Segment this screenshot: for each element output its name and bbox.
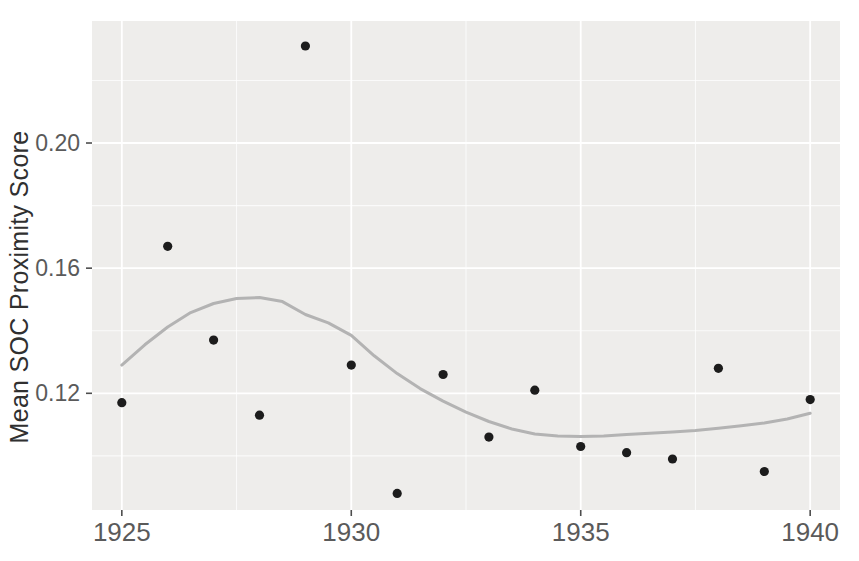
data-point-1938: [714, 364, 723, 373]
data-point-1925: [117, 398, 126, 407]
data-point-1928: [255, 411, 264, 420]
data-point-1932: [439, 370, 448, 379]
x-tick-label: 1930: [322, 517, 380, 547]
data-point-1931: [393, 489, 402, 498]
y-tick-label: 0.16: [35, 255, 80, 281]
data-point-1935: [576, 442, 585, 451]
data-point-1930: [347, 361, 356, 370]
scatter-plot: 19251930193519400.120.160.20 Mean SOC Pr…: [0, 0, 859, 561]
y-tick-label: 0.20: [35, 130, 80, 156]
data-point-1927: [209, 336, 218, 345]
x-tick-label: 1940: [781, 517, 839, 547]
data-point-1926: [163, 242, 172, 251]
data-point-1939: [760, 467, 769, 476]
data-point-1940: [806, 395, 815, 404]
y-tick-label: 0.12: [35, 380, 80, 406]
data-point-1937: [668, 454, 677, 463]
data-point-1933: [484, 433, 493, 442]
data-point-1929: [301, 41, 310, 50]
data-point-1936: [622, 448, 631, 457]
x-tick-label: 1925: [93, 517, 151, 547]
data-point-1934: [530, 386, 539, 395]
chart-canvas: 19251930193519400.120.160.20 Mean SOC Pr…: [0, 0, 859, 561]
chart-render-layer: 19251930193519400.120.160.20: [35, 21, 840, 547]
x-tick-label: 1935: [552, 517, 610, 547]
y-axis-title: Mean SOC Proximity Score: [5, 131, 33, 444]
